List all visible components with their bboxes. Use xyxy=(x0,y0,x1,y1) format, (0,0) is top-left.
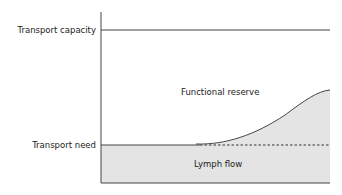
transport-capacity-label: Transport capacity xyxy=(17,25,96,35)
lymph-transport-diagram: Transport capacity Transport need Functi… xyxy=(0,0,342,195)
transport-need-label: Transport need xyxy=(31,140,96,150)
functional-reserve-label: Functional reserve xyxy=(181,87,259,97)
lymph-flow-area xyxy=(101,90,330,183)
lymph-flow-label: Lymph flow xyxy=(194,159,242,169)
